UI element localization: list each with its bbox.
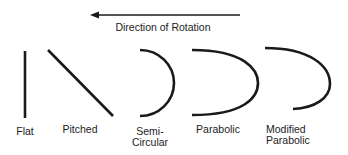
modified-parabolic-label-line2: Parabolic [266, 135, 322, 146]
pitched-blade-shape [48, 50, 113, 116]
parabolic-label: Parabolic [190, 124, 246, 135]
rotation-arrow-icon [90, 12, 240, 19]
semicircular-label-line2: Circular [125, 137, 175, 148]
parabolic-blade-shape [192, 50, 258, 115]
semicircular-label: Semi- Circular [125, 126, 175, 148]
modified-parabolic-label: Modified Parabolic [266, 124, 322, 146]
rotation-label: Direction of Rotation [113, 22, 213, 33]
flat-label: Flat [5, 126, 45, 137]
pitched-label: Pitched [55, 124, 105, 135]
semicircular-blade-shape [140, 50, 174, 116]
blade-shapes-diagram: Direction of Rotation Flat Pitched Semi-… [0, 0, 348, 155]
modified-parabolic-blade-shape [265, 48, 330, 109]
